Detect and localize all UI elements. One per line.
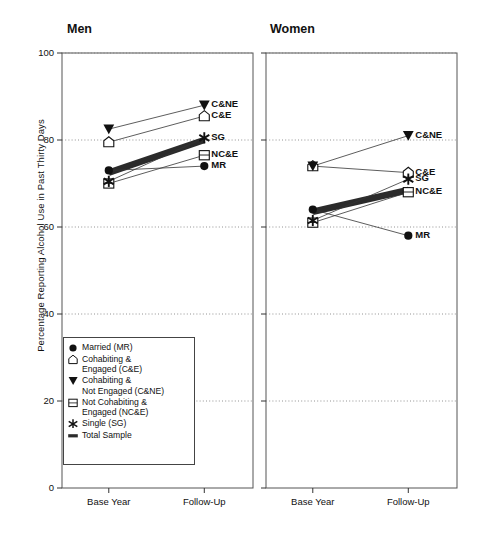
legend-item: Married (MR) — [67, 342, 191, 353]
series-end-label: SG — [211, 131, 225, 142]
series-end-label: NC&E — [211, 148, 238, 159]
panel-title-men: Men — [67, 22, 92, 36]
series-end-label: SG — [415, 172, 429, 183]
panel-title-women: Women — [270, 22, 315, 36]
legend: Married (MR) Cohabiting & Engaged (C&E) … — [63, 337, 195, 465]
legend-item: Cohabiting & Engaged (C&E) — [67, 354, 191, 374]
filled-circle-icon — [67, 342, 82, 353]
series-end-label: C&NE — [415, 129, 442, 140]
series-end-label: NC&E — [415, 185, 442, 196]
y-tick-label: 80 — [26, 134, 54, 145]
legend-item-label: Not Cohabiting & Engaged (NC&E) — [82, 397, 148, 417]
y-tick-label: 0 — [26, 482, 54, 493]
open-square-icon — [67, 397, 82, 408]
legend-item-label: Cohabiting & Engaged (C&E) — [82, 354, 142, 374]
y-tick-label: 40 — [26, 308, 54, 319]
legend-item-label: Cohabiting & Not Engaged (C&NE) — [82, 375, 164, 395]
y-tick-label: 60 — [26, 221, 54, 232]
x-tick-label: Follow-Up — [169, 496, 239, 507]
series-end-label: MR — [211, 159, 226, 170]
filled-triangle-down-icon — [67, 375, 82, 386]
legend-item: Not Cohabiting & Engaged (NC&E) — [67, 397, 191, 417]
y-tick-label: 100 — [26, 47, 54, 58]
legend-item-label: Total Sample — [82, 430, 132, 440]
legend-item: Cohabiting & Not Engaged (C&NE) — [67, 375, 191, 395]
asterisk-star-icon — [67, 418, 82, 429]
series-end-label: C&E — [211, 109, 231, 120]
y-axis-title: Percentage Reporting Alcohol Use in Past… — [35, 21, 46, 451]
legend-item-label: Single (SG) — [82, 418, 126, 428]
x-tick-label: Base Year — [74, 496, 144, 507]
legend-item: Single (SG) — [67, 418, 191, 429]
y-tick-label: 20 — [26, 395, 54, 406]
x-tick-label: Follow-Up — [373, 496, 443, 507]
legend-item: Total Sample — [67, 430, 191, 441]
x-tick-label: Base Year — [278, 496, 348, 507]
series-end-label: MR — [415, 229, 430, 240]
series-end-label: C&NE — [211, 98, 238, 109]
open-pentagon-icon — [67, 354, 82, 365]
legend-item-label: Married (MR) — [82, 342, 133, 352]
thick-bar-icon — [67, 430, 82, 441]
